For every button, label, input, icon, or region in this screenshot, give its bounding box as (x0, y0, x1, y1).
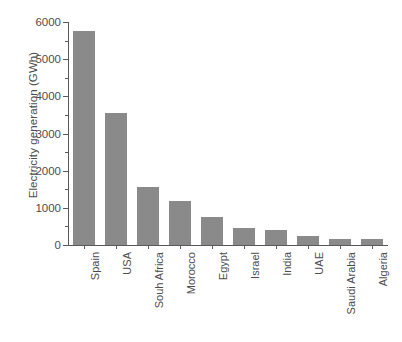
x-tick (244, 245, 245, 249)
x-tick (340, 245, 341, 249)
y-tick-label: 1000 (35, 202, 61, 214)
x-category-label: Morocco (185, 252, 197, 294)
x-tick (180, 245, 181, 249)
x-tick (308, 245, 309, 249)
x-category-label: Spain (89, 252, 101, 280)
bar (73, 31, 95, 245)
bar (105, 113, 127, 245)
x-category-label: India (281, 252, 293, 276)
x-tick (84, 245, 85, 249)
x-category-label: Algeria (377, 252, 389, 286)
x-tick (212, 245, 213, 249)
bar (297, 236, 319, 245)
bar (137, 187, 159, 245)
bar (169, 201, 191, 245)
y-tick-label: 4000 (35, 90, 61, 102)
y-tick-label: 6000 (35, 16, 61, 28)
x-category-label: Saudi Arabia (345, 252, 357, 314)
x-category-label: Israel (249, 252, 261, 279)
plot-area: 0100020003000400050006000 (68, 22, 388, 245)
x-tick (372, 245, 373, 249)
bar (201, 217, 223, 245)
x-axis-category-labels: SpainUSASouh AfricaMoroccoEgyptIsraelInd… (68, 252, 388, 342)
bar (265, 230, 287, 245)
x-category-label: USA (121, 252, 133, 275)
y-tick-label: 2000 (35, 165, 61, 177)
x-tick (148, 245, 149, 249)
bar (329, 239, 351, 246)
bar-series (68, 22, 388, 245)
bar (361, 239, 383, 245)
y-tick-label: 0 (55, 239, 61, 251)
bar-chart: Electricity generation (GWh) 01000200030… (0, 0, 402, 342)
y-tick-label: 3000 (35, 128, 61, 140)
x-category-label: Egypt (217, 252, 229, 280)
x-category-label: Souh Africa (153, 252, 165, 308)
y-tick (63, 245, 68, 246)
x-tick (276, 245, 277, 249)
y-tick-label: 5000 (35, 53, 61, 65)
x-tick (116, 245, 117, 249)
x-category-label: UAE (313, 252, 325, 275)
bar (233, 228, 255, 245)
